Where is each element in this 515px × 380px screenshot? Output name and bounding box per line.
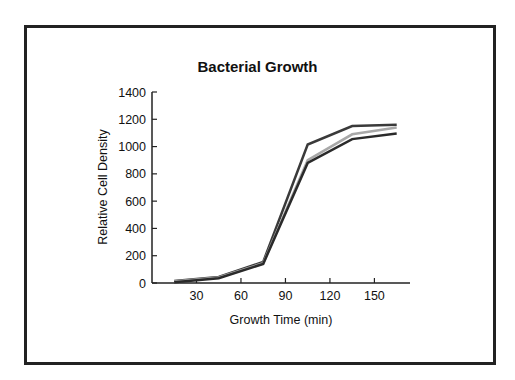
x-tick-label: 30 (190, 289, 204, 303)
data-lines (174, 125, 397, 283)
y-axis-label: Relative Cell Density (96, 129, 110, 245)
line-chart: 0200400600800100012001400306090120150 Gr… (0, 0, 515, 380)
y-tick-label: 800 (125, 167, 146, 181)
y-tick-label: 0 (139, 277, 146, 291)
y-tick-label: 1000 (118, 140, 146, 154)
y-tick-label: 1400 (118, 86, 146, 100)
series-line-1 (174, 125, 397, 281)
y-tick-label: 200 (125, 249, 146, 263)
y-tick-label: 600 (125, 195, 146, 209)
x-tick-label: 60 (234, 289, 248, 303)
x-tick-label: 150 (364, 289, 385, 303)
x-tick-label: 90 (278, 289, 292, 303)
x-tick-label: 120 (320, 289, 341, 303)
y-tick-label: 1200 (118, 113, 146, 127)
series-line-3 (174, 134, 397, 283)
axes: 0200400600800100012001400306090120150 (118, 86, 410, 304)
x-axis-label: Growth Time (min) (230, 313, 333, 327)
y-tick-label: 400 (125, 222, 146, 236)
